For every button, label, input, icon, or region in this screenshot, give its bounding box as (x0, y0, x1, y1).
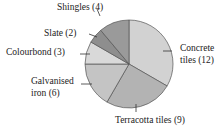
label-galvanised-line2: iron (6) (31, 88, 60, 99)
label-concrete-line1: Concrete (180, 43, 214, 54)
label-colourbond: Colourbond (3) (6, 47, 65, 58)
label-galvanised-line1: Galvanised (31, 76, 74, 87)
label-concrete-line2: tiles (12) (180, 55, 214, 66)
label-slate: Slate (2) (44, 28, 76, 39)
label-shingles: Shingles (4) (57, 2, 103, 13)
label-terracotta: Terracotta tiles (9) (115, 115, 185, 126)
